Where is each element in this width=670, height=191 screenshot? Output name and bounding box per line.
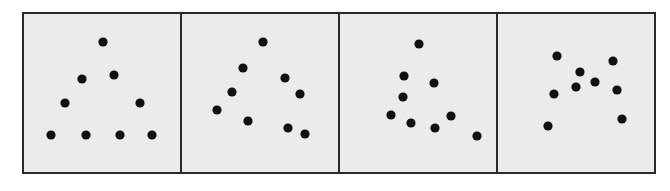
panel-2 [182,14,340,172]
dot [590,77,599,86]
dot [406,118,415,127]
dot [571,82,580,91]
dot [295,89,304,98]
dot [472,131,481,140]
dot [115,130,124,139]
dot [617,114,626,123]
dot [60,98,69,107]
dot [552,51,561,60]
panel-3-dots [340,14,496,172]
dot [46,130,55,139]
panel-4-dots [498,14,654,172]
dot [212,105,221,114]
dot [386,110,395,119]
dot [399,71,408,80]
dot [398,92,407,101]
dot [147,130,156,139]
dot [543,121,552,130]
dot [414,39,423,48]
dot [77,74,86,83]
dot [258,37,267,46]
dot-pattern-strip [22,12,656,174]
dot [280,73,289,82]
dot [283,123,292,132]
panel-1 [24,14,182,172]
dot [608,56,617,65]
panel-4 [498,14,654,172]
dot [429,78,438,87]
panel-2-dots [182,14,338,172]
dot [430,123,439,132]
panel-1-dots [24,14,180,172]
dot [549,89,558,98]
dot [81,130,90,139]
dot [135,98,144,107]
panel-3 [340,14,498,172]
dot [227,87,236,96]
dot [575,67,584,76]
dot [300,129,309,138]
dot [238,63,247,72]
dot [612,85,621,94]
dot [98,37,107,46]
dot [109,70,118,79]
dot [446,111,455,120]
dot [243,116,252,125]
